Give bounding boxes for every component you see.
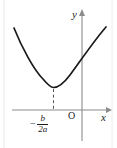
fraction-b-over-2a: b 2a (37, 114, 48, 134)
minus-sign: − (30, 119, 36, 129)
y-axis-label: y (72, 9, 77, 20)
parabola-curve (14, 27, 106, 88)
fraction-denominator: 2a (37, 125, 48, 135)
origin-label: O (68, 111, 75, 121)
x-axis-arrow (106, 107, 112, 113)
vertex-x-coordinate-label: − b 2a (30, 114, 48, 134)
fraction-numerator: b (39, 114, 46, 124)
parabola-figure: y x O − b 2a (0, 0, 117, 148)
x-axis-label: x (101, 112, 106, 123)
y-axis-arrow (79, 9, 85, 16)
parabola-graphic (0, 0, 117, 148)
